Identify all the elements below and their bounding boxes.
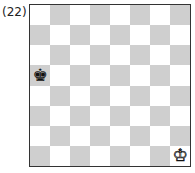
square-d3: [90, 106, 110, 126]
square-e6: [110, 45, 130, 65]
square-a8: [30, 5, 50, 25]
square-g6: [150, 45, 170, 65]
square-d4: [90, 86, 110, 106]
square-b7: [50, 25, 70, 45]
square-a7: [30, 25, 50, 45]
square-g2: [150, 126, 170, 146]
square-f2: [130, 126, 150, 146]
square-d7: [90, 25, 110, 45]
square-d8: [90, 5, 110, 25]
square-g1: [150, 146, 170, 166]
square-c1: [70, 146, 90, 166]
square-b5: [50, 65, 70, 85]
square-a3: [30, 106, 50, 126]
square-h6: [170, 45, 190, 65]
square-f3: [130, 106, 150, 126]
square-d2: [90, 126, 110, 146]
square-b2: [50, 126, 70, 146]
square-b1: [50, 146, 70, 166]
square-e4: [110, 86, 130, 106]
square-e1: [110, 146, 130, 166]
square-h3: [170, 106, 190, 126]
square-d5: [90, 65, 110, 85]
square-h1: ♔: [170, 146, 190, 166]
square-f6: [130, 45, 150, 65]
square-a1: [30, 146, 50, 166]
square-h8: [170, 5, 190, 25]
square-a4: [30, 86, 50, 106]
chess-board: ♚♔: [29, 4, 191, 167]
square-h7: [170, 25, 190, 45]
square-e5: [110, 65, 130, 85]
square-h4: [170, 86, 190, 106]
square-e3: [110, 106, 130, 126]
square-c6: [70, 45, 90, 65]
square-c3: [70, 106, 90, 126]
square-c8: [70, 5, 90, 25]
square-g3: [150, 106, 170, 126]
square-b3: [50, 106, 70, 126]
square-f1: [130, 146, 150, 166]
white-king-icon: ♔: [172, 147, 187, 164]
square-g7: [150, 25, 170, 45]
black-king-icon: ♚: [32, 67, 47, 84]
square-b6: [50, 45, 70, 65]
square-c7: [70, 25, 90, 45]
square-c5: [70, 65, 90, 85]
square-c4: [70, 86, 90, 106]
square-b4: [50, 86, 70, 106]
square-f7: [130, 25, 150, 45]
square-d1: [90, 146, 110, 166]
square-a2: [30, 126, 50, 146]
square-g4: [150, 86, 170, 106]
diagram-number-label: (22): [2, 5, 27, 19]
square-h2: [170, 126, 190, 146]
square-b8: [50, 5, 70, 25]
square-g5: [150, 65, 170, 85]
square-e8: [110, 5, 130, 25]
square-a5: ♚: [30, 65, 50, 85]
square-c2: [70, 126, 90, 146]
square-e2: [110, 126, 130, 146]
square-h5: [170, 65, 190, 85]
square-f4: [130, 86, 150, 106]
square-d6: [90, 45, 110, 65]
square-f8: [130, 5, 150, 25]
square-e7: [110, 25, 130, 45]
square-a6: [30, 45, 50, 65]
square-f5: [130, 65, 150, 85]
square-g8: [150, 5, 170, 25]
